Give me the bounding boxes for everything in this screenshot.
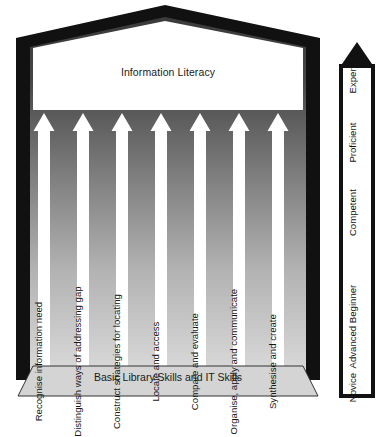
scale-level-slot-expert: Expert — [349, 38, 367, 80]
pillar-label-6: Organise, apply and communicate — [229, 289, 239, 435]
pillar-label-2: Distinguish ways of addressing gap — [73, 287, 83, 437]
scale-level-advanced-beginner: Advanced Beginner — [348, 285, 358, 369]
scale-level-competent: Competent — [348, 190, 358, 237]
scale-level-novice: Novice — [348, 373, 358, 402]
pillar-label-3: Construct strategies for locating — [112, 295, 122, 430]
pillar-label-5: Compare and evaluate — [190, 313, 200, 410]
foundation-label: Basic Library Skills and IT Skills — [30, 371, 306, 383]
pillar-label-4: Locate and access — [151, 322, 161, 402]
pillar-label-slot-6: Organise, apply and communicate — [231, 142, 247, 362]
pillar-label-slot-2: Distinguish ways of addressing gap — [75, 132, 91, 362]
pillar-label-slot-7: Synthesise and create — [270, 188, 286, 362]
pillar-label-1: Recognise information need — [34, 302, 44, 421]
pillar-label-slot-3: Construct strategies for locating — [114, 136, 130, 362]
pillar-label-slot-5: Compare and evaluate — [192, 178, 208, 362]
scale-level-proficient: Proficient — [348, 123, 358, 163]
page-title: Information Literacy — [30, 66, 306, 78]
pillar-label-7: Synthesise and create — [268, 315, 278, 410]
pillar-label-slot-1: Recognise information need — [36, 150, 52, 362]
scale-level-expert: Expert — [348, 66, 358, 94]
pillar-label-slot-4: Locate and access — [153, 198, 169, 362]
